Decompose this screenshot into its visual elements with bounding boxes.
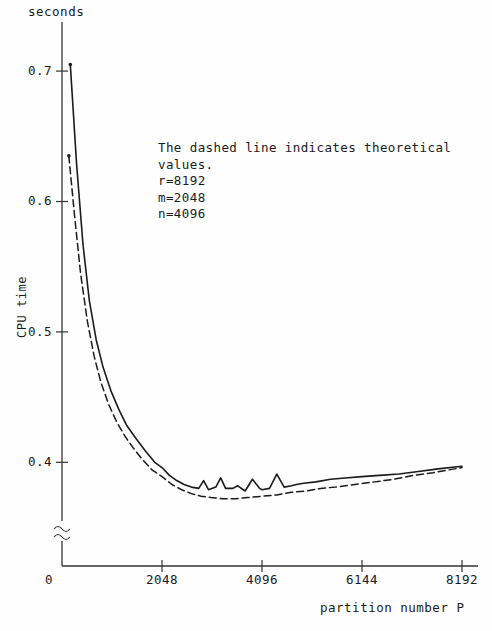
axis-break-icon (54, 527, 70, 540)
series-line-measured (70, 65, 462, 491)
data-series-layer (67, 63, 462, 499)
series-start-marker-measured (69, 63, 73, 67)
figure-canvas: seconds CPU time The dashed line indicat… (0, 0, 492, 631)
series-start-marker-theoretical (67, 154, 71, 158)
series-line-theoretical (69, 156, 462, 499)
axes-group (54, 22, 478, 566)
plot-area (0, 0, 492, 631)
